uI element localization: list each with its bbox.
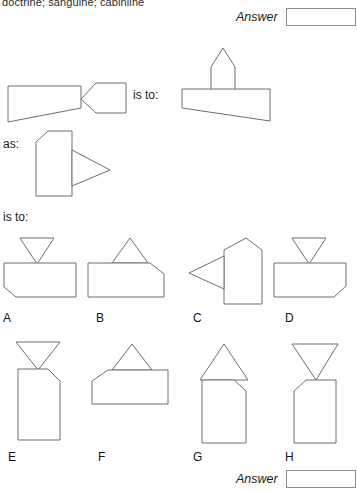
option-d-svg bbox=[272, 236, 357, 306]
house-pentagon bbox=[211, 48, 235, 92]
right-pointing-triangle bbox=[72, 150, 110, 186]
option-b-svg bbox=[86, 236, 181, 306]
left-pointing-pentagon bbox=[81, 83, 126, 113]
relation-is-to-second: is to: bbox=[3, 210, 28, 224]
option-a-figure[interactable] bbox=[2, 236, 92, 306]
option-a-letter: A bbox=[3, 311, 11, 325]
clipped-header-text: doctrine; sanguine; cabinline bbox=[2, 0, 144, 8]
clipped-corner-rectangle bbox=[36, 131, 72, 196]
option-h-figure[interactable] bbox=[272, 340, 357, 448]
stem-figure-b bbox=[180, 44, 290, 126]
rectangle-clipped-top-right-tall bbox=[224, 238, 262, 304]
option-h-svg bbox=[272, 340, 357, 448]
option-f-svg bbox=[90, 340, 185, 420]
option-c-svg bbox=[186, 234, 276, 310]
option-c-letter: C bbox=[193, 311, 202, 325]
rectangle-clipped-top-right bbox=[88, 263, 164, 297]
answer-label-top: Answer bbox=[236, 10, 278, 24]
option-e-figure[interactable] bbox=[8, 340, 88, 448]
quadrilateral-body bbox=[8, 86, 81, 122]
answer-input-top[interactable] bbox=[286, 8, 356, 26]
up-pointing-triangle bbox=[112, 344, 152, 370]
up-pointing-triangle bbox=[112, 238, 148, 263]
tall-rectangle-clipped-top-right bbox=[202, 380, 246, 443]
down-pointing-triangle bbox=[16, 342, 60, 370]
option-d-letter: D bbox=[285, 311, 294, 325]
wide-rectangle-clipped-top-left bbox=[92, 370, 168, 404]
option-d-figure[interactable] bbox=[272, 236, 357, 306]
answer-input-bottom[interactable] bbox=[286, 470, 356, 488]
left-pointing-triangle bbox=[189, 256, 224, 289]
option-b-figure[interactable] bbox=[86, 236, 181, 306]
relation-is-to-first: is to: bbox=[133, 88, 158, 102]
answer-label-bottom: Answer bbox=[236, 472, 278, 486]
rectangle-clipped-bottom-left bbox=[4, 263, 76, 297]
option-a-svg bbox=[2, 236, 92, 306]
option-e-svg bbox=[8, 340, 88, 448]
up-pointing-triangle bbox=[200, 344, 248, 380]
option-b-letter: B bbox=[96, 311, 104, 325]
stem-a-svg bbox=[6, 72, 134, 124]
tall-rectangle-clipped-top-right bbox=[18, 369, 60, 440]
option-g-letter: G bbox=[193, 450, 202, 464]
option-g-svg bbox=[186, 340, 271, 448]
down-pointing-triangle bbox=[292, 344, 338, 380]
answer-row-bottom: Answer bbox=[236, 470, 356, 488]
option-h-letter: H bbox=[285, 450, 294, 464]
rectangle-clipped-bottom-right bbox=[274, 263, 346, 297]
stem-c-svg bbox=[34, 128, 144, 200]
option-c-figure[interactable] bbox=[186, 234, 276, 310]
stem-figure-c bbox=[34, 128, 144, 200]
option-f-letter: F bbox=[98, 450, 105, 464]
option-f-figure[interactable] bbox=[90, 340, 185, 420]
quadrilateral-base bbox=[182, 89, 270, 121]
down-pointing-triangle bbox=[20, 238, 54, 264]
down-pointing-triangle bbox=[292, 238, 326, 264]
answer-row-top: Answer bbox=[236, 8, 356, 26]
option-g-figure[interactable] bbox=[186, 340, 271, 448]
tall-rectangle-clipped-top-left bbox=[294, 380, 336, 443]
option-e-letter: E bbox=[8, 450, 16, 464]
stem-b-svg bbox=[180, 44, 290, 126]
relation-as: as: bbox=[3, 137, 19, 151]
stem-figure-a bbox=[6, 72, 134, 124]
